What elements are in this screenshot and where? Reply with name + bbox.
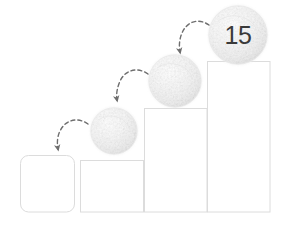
snowball-large: 15 xyxy=(208,5,268,65)
snowball-medium xyxy=(148,54,202,108)
arrow-3 xyxy=(179,21,209,52)
snowball-value-label: 15 xyxy=(225,21,252,49)
snowball-growth-diagram: 15 xyxy=(0,0,287,227)
diagram-canvas: 15 xyxy=(0,0,287,227)
bar-1 xyxy=(21,156,75,213)
snowball-small xyxy=(90,107,138,155)
bar-2 xyxy=(81,161,144,213)
arrow-2 xyxy=(117,70,148,100)
arrow-1 xyxy=(57,120,88,149)
bar-4 xyxy=(208,62,271,213)
bar-3 xyxy=(145,109,208,213)
